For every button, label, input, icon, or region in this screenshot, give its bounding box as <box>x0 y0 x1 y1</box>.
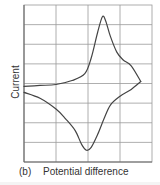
page-edge <box>0 182 160 185</box>
x-axis-label: Potential difference <box>43 166 128 177</box>
plot-area <box>0 0 160 185</box>
voltammogram-chart: Current (b) Potential difference <box>0 0 160 185</box>
y-axis-label: Current <box>10 65 21 98</box>
gridlines <box>24 5 152 162</box>
reverse-scan-curve <box>24 82 141 151</box>
forward-scan-curve <box>24 16 141 86</box>
panel-label: (b) <box>19 166 31 177</box>
x-axis-caption: (b) Potential difference <box>19 166 128 177</box>
